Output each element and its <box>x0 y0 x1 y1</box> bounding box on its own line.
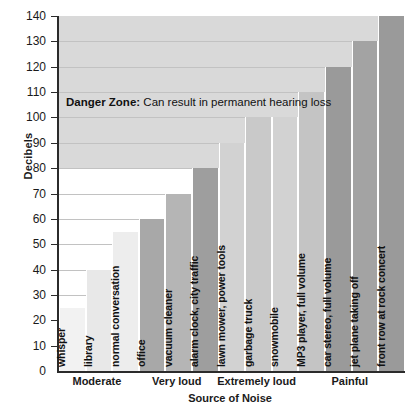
y-axis-tick-label: 140 <box>12 9 46 23</box>
y-axis-tick-label: 20 <box>12 313 46 327</box>
y-axis-tick-label: 100 <box>12 110 46 124</box>
y-axis-tick-label: 130 <box>12 34 46 48</box>
x-axis-title: Source of Noise <box>57 392 403 404</box>
bar-cell: normal conversation <box>112 16 139 371</box>
bar-label: MP3 player, full volume <box>295 253 307 367</box>
y-axis-tick-mark <box>51 270 57 271</box>
bar-series: whisperlibrarynormal conversationofficev… <box>59 16 405 371</box>
y-axis-tick-mark <box>51 219 57 220</box>
y-axis-tick-label: 0 <box>12 364 46 378</box>
y-axis-tick-label: 90 <box>12 136 46 150</box>
y-axis-tick-label: 120 <box>12 60 46 74</box>
y-axis-tick-label: 70 <box>12 187 46 201</box>
y-axis-tick-label: 60 <box>12 212 46 226</box>
bar-label: jet plane taking off <box>348 276 360 367</box>
bar-label: snowmobile <box>268 307 280 367</box>
y-axis-tick-mark <box>51 168 57 169</box>
y-axis-tick-mark <box>51 295 57 296</box>
y-axis-tick-mark <box>51 143 57 144</box>
y-axis-tick-mark <box>51 194 57 195</box>
y-axis-tick-label: 10 <box>12 339 46 353</box>
danger-zone-label: Danger Zone: <box>66 96 140 108</box>
y-axis-tick-mark <box>51 92 57 93</box>
bar-label: alarm clock, city traffic <box>188 256 200 367</box>
y-axis-tick-label: 110 <box>12 85 46 99</box>
bar-label: library <box>82 336 94 367</box>
plot-area: whisperlibrarynormal conversationofficev… <box>57 16 405 373</box>
danger-zone-description: Can result in permanent hearing loss <box>140 96 331 108</box>
bar-label: car stereo, full volume <box>321 258 333 367</box>
bar-label: lawn mower, power tools <box>215 245 227 367</box>
bar-label: whisper <box>55 328 67 367</box>
bar-cell: front row at rock concert <box>378 16 405 371</box>
group-label: Very loud <box>137 375 217 387</box>
group-labels: ModerateVery loudExtremely loudPainful <box>57 375 403 387</box>
y-axis-tick-mark <box>51 67 57 68</box>
bar-label: front row at rock concert <box>375 246 387 367</box>
y-axis-tick-mark <box>51 244 57 245</box>
danger-zone-annotation: Danger Zone: Can result in permanent hea… <box>66 96 331 108</box>
bar-label: office <box>135 340 147 367</box>
group-label: Extremely loud <box>217 375 297 387</box>
y-axis-tick-mark <box>51 346 57 347</box>
y-axis-tick-label: 30 <box>12 288 46 302</box>
group-label: Moderate <box>57 375 137 387</box>
group-label: Painful <box>297 375 403 387</box>
decibel-bar-chart: Decibels whisperlibrarynormal conversati… <box>0 0 409 413</box>
bar-cell: whisper <box>59 16 86 371</box>
bar-label: vacuum cleaner <box>162 289 174 367</box>
y-axis-tick-mark <box>51 41 57 42</box>
y-axis-tick-label: 80 <box>12 161 46 175</box>
y-axis-tick-label: 50 <box>12 237 46 251</box>
y-axis-tick-mark <box>51 320 57 321</box>
y-axis-tick-mark <box>51 16 57 17</box>
bar-label: normal conversation <box>109 266 121 367</box>
y-axis-tick-mark <box>51 117 57 118</box>
y-axis-tick-label: 40 <box>12 263 46 277</box>
bar-label: garbage truck <box>242 299 254 367</box>
